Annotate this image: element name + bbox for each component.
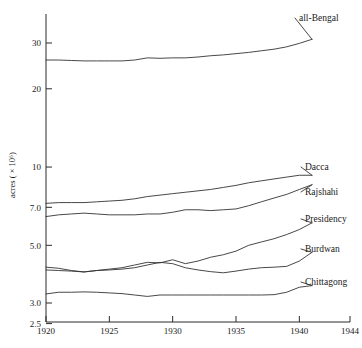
y-axis-tick-label: 3.0 <box>30 298 42 308</box>
y-axis-title-group: acres ( × 10⁶) <box>7 152 17 198</box>
y-axis-tick-label: 20 <box>32 84 42 94</box>
y-axis-ticks: 3020107.05.03.02.5 <box>30 38 52 329</box>
series-line-dacca <box>46 175 312 203</box>
y-axis-title: acres ( × 10⁶) <box>7 152 17 198</box>
chart-series-lines <box>46 39 312 296</box>
series-label-burdwan: Burdwan <box>305 244 340 254</box>
chart-series-labels: all-BengalDaccaRajshahiPresidencyBurdwan… <box>295 13 347 287</box>
series-line-burdwan <box>46 252 312 272</box>
x-axis-ticks: 192019251930193519401944 <box>37 316 360 336</box>
y-axis-tick-label: 7.0 <box>30 203 42 213</box>
x-axis-tick-label: 1935 <box>227 326 246 336</box>
series-label-rajshahi: Rajshahi <box>305 187 339 197</box>
x-axis-tick-label: 1940 <box>290 326 309 336</box>
x-axis-tick-label: 1925 <box>100 326 119 336</box>
series-line-chittagong <box>46 286 312 297</box>
y-axis-tick-label: 10 <box>32 162 42 172</box>
series-label-dacca: Dacca <box>305 162 330 172</box>
x-axis-tick-label: 1930 <box>164 326 183 336</box>
series-line-rajshahi <box>46 185 312 217</box>
series-line-all-bengal <box>46 39 312 61</box>
series-line-presidency <box>46 223 312 272</box>
x-axis-tick-label: 1944 <box>341 326 360 336</box>
y-axis-tick-label: 30 <box>32 38 42 48</box>
chart-container: 3020107.05.03.02.5 192019251930193519401… <box>0 0 362 348</box>
x-axis-tick-label: 1920 <box>37 326 56 336</box>
series-label-all-bengal: all-Bengal <box>299 13 339 23</box>
y-axis-tick-label: 5.0 <box>30 241 42 251</box>
line-chart: 3020107.05.03.02.5 192019251930193519401… <box>0 0 362 348</box>
